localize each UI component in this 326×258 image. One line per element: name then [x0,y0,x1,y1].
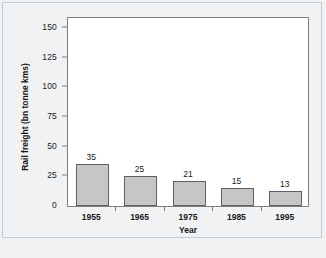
y-axis-tick-label: 25 [47,170,57,180]
y-axis-tick-label: 50 [47,141,57,151]
x-axis-tick-label: 1955 [82,212,101,222]
y-axis-tick-label: 0 [52,200,57,210]
bar [221,188,254,206]
x-axis-tick-label: 1985 [227,212,246,222]
y-axis-tick-label: 100 [42,81,57,91]
bar-value-label: 13 [280,179,289,189]
x-axis-title: Year [67,225,309,235]
x-axis-tick-mark [261,207,262,211]
y-axis-title: Rail freight (bn tonne kms) [20,57,30,177]
bar [76,164,109,206]
y-axis-tick-label: 150 [42,22,57,32]
x-axis-tick-mark [212,207,213,211]
bar [269,191,302,206]
y-axis: 0255075100125150 [3,3,65,221]
bar-value-label: 21 [183,169,192,179]
bar-value-label: 25 [135,164,144,174]
x-axis-tick-mark [164,207,165,211]
bar-value-label: 15 [232,176,241,186]
x-axis-tick-label: 1995 [275,212,294,222]
y-axis-tick-label: 125 [42,52,57,62]
y-axis-tick-label: 75 [47,111,57,121]
figure-page: 0255075100125150 Rail freight (bn tonne … [0,0,326,258]
x-axis-tick-label: 1975 [179,212,198,222]
bar [124,176,157,206]
bar-value-label: 35 [86,152,95,162]
bar [173,181,206,206]
x-axis-tick-mark [115,207,116,211]
figure-border: 0255075100125150 Rail freight (bn tonne … [2,2,322,238]
x-axis-tick-label: 1965 [130,212,149,222]
